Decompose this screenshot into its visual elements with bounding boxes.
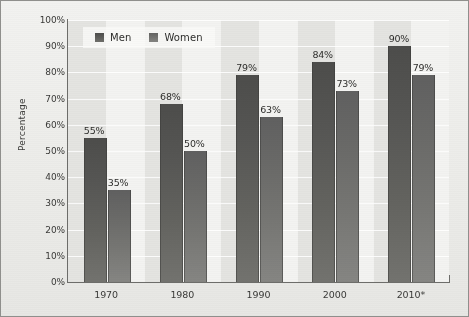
bar-women-2000 bbox=[336, 91, 359, 282]
legend-label-men: Men bbox=[110, 32, 131, 43]
bar-men-1970 bbox=[84, 138, 107, 282]
x-tick-1970: 1970 bbox=[94, 289, 118, 300]
y-tick-70: 70% bbox=[3, 94, 65, 104]
legend-item-women: Women bbox=[149, 32, 202, 43]
bar-women-2010* bbox=[412, 75, 435, 282]
bar-label-men-1990: 79% bbox=[236, 62, 257, 73]
bar-label-women-2000: 73% bbox=[336, 78, 357, 89]
y-tick-50: 50% bbox=[3, 146, 65, 156]
bar-label-men-2010*: 90% bbox=[389, 33, 410, 44]
y-axis-line bbox=[67, 19, 68, 283]
y-tick-20: 20% bbox=[3, 225, 65, 235]
category-separator-4 bbox=[373, 20, 374, 282]
y-tick-100: 100% bbox=[3, 15, 65, 25]
y-tick-90: 90% bbox=[3, 41, 65, 51]
y-tick-60: 60% bbox=[3, 120, 65, 130]
bar-women-1970 bbox=[108, 190, 131, 282]
bar-label-women-1970: 35% bbox=[108, 177, 129, 188]
legend-swatch-women-icon bbox=[149, 33, 158, 42]
bar-label-men-1980: 68% bbox=[160, 91, 181, 102]
x-tick-1980: 1980 bbox=[170, 289, 194, 300]
y-tick-10: 10% bbox=[3, 251, 65, 261]
category-separator-2 bbox=[220, 20, 221, 282]
x-axis-line bbox=[67, 282, 450, 283]
legend-label-women: Women bbox=[164, 32, 202, 43]
bar-label-women-1990: 63% bbox=[260, 104, 281, 115]
bar-men-2000 bbox=[312, 62, 335, 282]
category-separator-1 bbox=[144, 20, 145, 282]
y-axis-tick-labels: 100%90%80%70%60%50%40%30%20%10%0% bbox=[1, 1, 65, 317]
chart-frame: Percentage 100%90%80%70%60%50%40%30%20%1… bbox=[0, 0, 469, 317]
bar-label-men-1970: 55% bbox=[84, 125, 105, 136]
plot-area: 55%35%68%50%79%63%84%73%90%79% bbox=[68, 20, 449, 282]
legend-item-men: Men bbox=[95, 32, 131, 43]
bar-men-1980 bbox=[160, 104, 183, 282]
x-tick-2010*: 2010* bbox=[397, 289, 425, 300]
legend-swatch-men-icon bbox=[95, 33, 104, 42]
bar-label-women-1980: 50% bbox=[184, 138, 205, 149]
bar-label-women-2010*: 79% bbox=[413, 62, 434, 73]
gridline-100 bbox=[68, 20, 449, 21]
bar-women-1990 bbox=[260, 117, 283, 282]
category-separator-3 bbox=[297, 20, 298, 282]
x-tick-1990: 1990 bbox=[247, 289, 271, 300]
bar-women-1980 bbox=[184, 151, 207, 282]
x-axis-end-tick bbox=[449, 275, 450, 283]
bar-men-1990 bbox=[236, 75, 259, 282]
y-tick-40: 40% bbox=[3, 172, 65, 182]
chart-legend: Men Women bbox=[83, 27, 215, 48]
y-tick-30: 30% bbox=[3, 198, 65, 208]
y-tick-0: 0% bbox=[3, 277, 65, 287]
x-tick-2000: 2000 bbox=[323, 289, 347, 300]
bar-label-men-2000: 84% bbox=[312, 49, 333, 60]
bar-men-2010* bbox=[388, 46, 411, 282]
y-tick-80: 80% bbox=[3, 67, 65, 77]
